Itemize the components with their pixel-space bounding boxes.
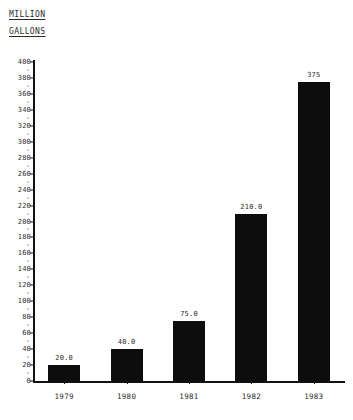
y-tick-minor: -: [26, 178, 30, 186]
y-tick-label: 300: [18, 138, 31, 146]
y-tick-label: 240: [18, 186, 31, 194]
bar: [173, 321, 205, 381]
bar-value-label: 75.0: [180, 310, 198, 318]
y-tick-minor: -: [26, 98, 30, 106]
bar-value-label: 375: [307, 71, 320, 79]
y-tick-label: 100: [18, 297, 31, 305]
y-tick-label: 400: [18, 58, 31, 66]
y-tick-minor: -: [26, 162, 30, 170]
y-tick-minor: -: [26, 146, 30, 154]
y-tick-minor: -: [26, 257, 30, 265]
y-tick-minor: -: [26, 130, 30, 138]
x-tick-label: 1979: [55, 392, 74, 401]
bar-value-label: 210.0: [240, 203, 262, 211]
y-tick-label: 200: [18, 218, 31, 226]
y-tick-minor: -: [26, 337, 30, 345]
bar: [298, 82, 330, 381]
bar-chart: MILLION GALLONS 400380360340320300280260…: [0, 0, 353, 420]
x-tick-mark: [64, 381, 65, 384]
y-tick-label: 380: [18, 74, 31, 82]
x-tick-mark: [189, 381, 190, 384]
y-tick-label: 260: [18, 170, 31, 178]
y-tick-label: 220: [18, 202, 31, 210]
y-tick-minor: -: [26, 289, 30, 297]
y-tick-label: 120: [18, 281, 31, 289]
bar-value-label: 40.0: [118, 338, 136, 346]
y-tick-label: 180: [18, 233, 31, 241]
y-tick-minor: -: [26, 82, 30, 90]
y-tick-minor: -: [26, 369, 30, 377]
y-tick-minor: -: [26, 321, 30, 329]
plot-area: 20.040.075.0210.0375: [33, 62, 345, 381]
y-tick-minor: -: [26, 273, 30, 281]
y-tick-minor: -: [26, 114, 30, 122]
y-tick-label: 340: [18, 106, 31, 114]
bar: [111, 349, 143, 381]
y-tick-label: 320: [18, 122, 31, 130]
bar: [48, 365, 80, 381]
x-tick-mark: [251, 381, 252, 384]
x-tick-label: 1981: [179, 392, 198, 401]
x-tick-label: 1982: [242, 392, 261, 401]
y-tick-minor: -: [26, 210, 30, 218]
y-tick-label: 360: [18, 90, 31, 98]
x-tick-mark: [314, 381, 315, 384]
x-tick-mark: [127, 381, 128, 384]
y-tick-label: 160: [18, 249, 31, 257]
y-tick-minor: -: [26, 353, 30, 361]
bar: [235, 214, 267, 381]
y-tick-minor: -: [26, 225, 30, 233]
x-tick-label: 1980: [117, 392, 136, 401]
y-tick-minor: -: [26, 241, 30, 249]
y-tick-label: 140: [18, 265, 31, 273]
y-tick-label: 280: [18, 154, 31, 162]
y-axis-tick-labels: 4003803603403203002802602402202001801601…: [0, 0, 31, 420]
bar-value-label: 20.0: [55, 354, 73, 362]
y-tick-minor: -: [26, 66, 30, 74]
y-tick-minor: -: [26, 305, 30, 313]
x-tick-label: 1983: [304, 392, 323, 401]
y-tick-minor: -: [26, 194, 30, 202]
